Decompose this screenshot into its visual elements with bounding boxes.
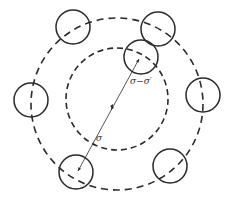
particle-circle bbox=[153, 149, 187, 183]
particle-circle bbox=[124, 40, 158, 74]
particle-circle bbox=[14, 83, 48, 117]
hard-sphere-shell-diagram: σ σ−σ′ bbox=[0, 0, 230, 198]
label-sigma: σ bbox=[96, 133, 103, 143]
outer-shell-ring bbox=[31, 18, 203, 190]
label-sigma-minus-sigma-prime: σ−σ′ bbox=[130, 76, 152, 86]
particle-circle bbox=[56, 10, 90, 44]
particle-circle bbox=[59, 155, 93, 189]
